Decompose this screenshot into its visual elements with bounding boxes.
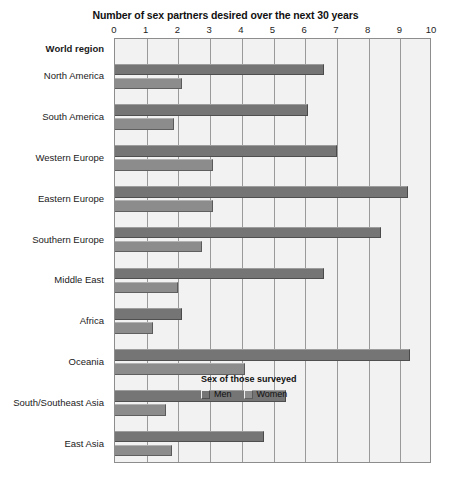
bar-men	[115, 268, 324, 280]
category-label: Southern Europe	[32, 233, 104, 244]
bar-men	[115, 308, 182, 320]
bar-men	[115, 145, 337, 157]
category-label: Eastern Europe	[38, 192, 104, 203]
category-label: South/Southeast Asia	[13, 396, 104, 407]
x-tick-label: 4	[238, 24, 243, 35]
category-label: North America	[44, 70, 104, 81]
gridline	[337, 39, 338, 462]
x-tick-label: 10	[426, 24, 437, 35]
x-tick-label: 6	[302, 24, 307, 35]
x-tick-label: 3	[206, 24, 211, 35]
gridline	[400, 39, 401, 462]
category-axis-labels: World regionNorth AmericaSouth AmericaWe…	[0, 38, 110, 463]
legend-item: Women	[244, 389, 288, 399]
legend-title: Sex of those surveyed	[201, 374, 315, 384]
x-tick-label: 9	[397, 24, 402, 35]
legend-swatch-men-icon	[201, 390, 210, 399]
chart-container: Number of sex partners desired over the …	[0, 0, 451, 477]
gridline	[369, 39, 370, 462]
legend-items: MenWomen	[201, 389, 315, 399]
category-label: South America	[42, 111, 104, 122]
legend-label: Women	[257, 389, 288, 399]
bar-men	[115, 227, 381, 239]
x-tick-label: 2	[175, 24, 180, 35]
bar-women	[115, 282, 178, 294]
x-tick-label: 8	[365, 24, 370, 35]
bar-women	[115, 78, 182, 90]
bar-women	[115, 404, 166, 416]
category-label: Middle East	[54, 274, 104, 285]
legend-label: Men	[214, 389, 232, 399]
x-tick-label: 5	[270, 24, 275, 35]
bar-women	[115, 322, 153, 334]
chart-legend: Sex of those surveyed MenWomen	[196, 370, 320, 404]
category-label: Africa	[80, 315, 104, 326]
bar-men	[115, 186, 408, 198]
bar-men	[115, 104, 308, 116]
bar-men	[115, 349, 410, 361]
bar-women	[115, 118, 174, 130]
category-label: East Asia	[64, 437, 104, 448]
x-tick-label: 0	[111, 24, 116, 35]
bar-women	[115, 200, 213, 212]
bar-women	[115, 445, 172, 457]
category-axis-title: World region	[46, 42, 104, 53]
x-tick-label: 1	[143, 24, 148, 35]
bar-women	[115, 241, 202, 253]
bar-men	[115, 64, 324, 76]
legend-swatch-women-icon	[244, 390, 253, 399]
category-label: Western Europe	[36, 152, 104, 163]
x-tick-label: 7	[333, 24, 338, 35]
x-axis-tick-labels: 012345678910	[0, 24, 451, 38]
legend-item: Men	[201, 389, 232, 399]
chart-title: Number of sex partners desired over the …	[0, 9, 451, 21]
bar-women	[115, 159, 213, 171]
bar-men	[115, 431, 264, 443]
category-label: Oceania	[69, 356, 104, 367]
